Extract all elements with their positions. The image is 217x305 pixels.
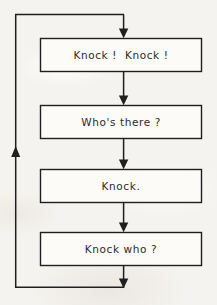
- connector-3-to-4: [119, 203, 128, 233]
- connector-1-to-2: [119, 72, 128, 106]
- arrowhead-entry: [119, 29, 128, 39]
- connector-2-to-3: [119, 139, 128, 170]
- node-box-3[interactable]: [41, 170, 202, 203]
- node-box-1[interactable]: [41, 39, 202, 72]
- flowchart-lines: [0, 0, 217, 305]
- loop-arrowhead-up: [11, 146, 20, 157]
- node-box-2[interactable]: [41, 106, 202, 139]
- flowchart-canvas: Knock ! Knock ! Who's there ? Knock. Kno…: [0, 0, 217, 305]
- node-box-4[interactable]: [41, 233, 202, 266]
- connector-exit: [119, 266, 128, 289]
